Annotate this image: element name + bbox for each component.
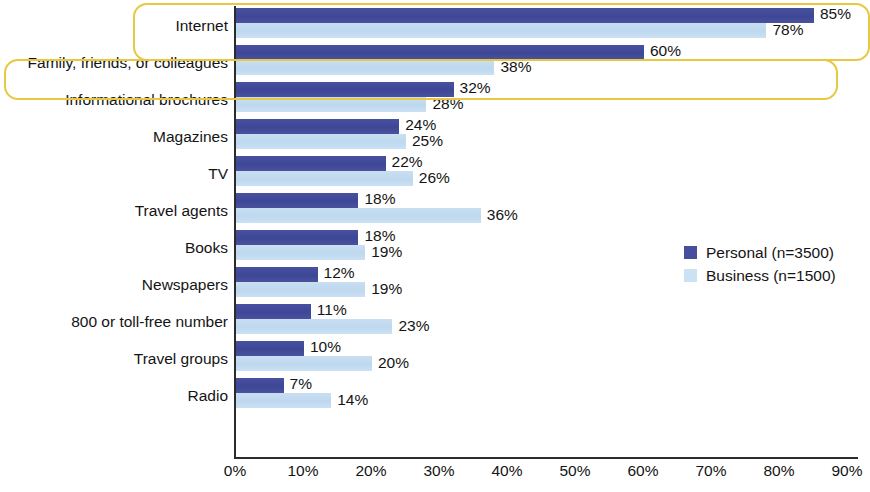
x-axis-tick: 60%	[627, 462, 658, 480]
bar-personal	[236, 119, 399, 134]
value-label-business: 14%	[337, 392, 368, 408]
category-label: Books	[0, 229, 228, 266]
bar-business	[236, 393, 331, 408]
legend-label-business: Business (n=1500)	[706, 267, 836, 285]
category-label: 800 or toll-free number	[0, 303, 228, 340]
value-label-business: 38%	[500, 59, 531, 75]
chart-row: 60%38%	[235, 43, 869, 80]
value-label-business: 19%	[371, 244, 402, 260]
category-label: Newspapers	[0, 266, 228, 303]
value-label-personal: 24%	[405, 117, 436, 133]
category-label: TV	[0, 155, 228, 192]
bar-business	[236, 356, 372, 371]
legend-swatch-business-icon	[684, 269, 697, 282]
value-label-personal: 18%	[364, 228, 395, 244]
value-label-personal: 7%	[290, 376, 312, 392]
bar-personal	[236, 230, 358, 245]
bar-personal	[236, 82, 454, 97]
bar-personal	[236, 193, 358, 208]
bar-personal	[236, 378, 284, 393]
value-label-personal: 32%	[460, 80, 491, 96]
bar-personal	[236, 304, 311, 319]
value-label-business: 23%	[398, 318, 429, 334]
x-axis-tick: 0%	[224, 462, 246, 480]
value-label-personal: 85%	[820, 6, 851, 22]
x-axis-tick: 50%	[559, 462, 590, 480]
x-axis-tick: 70%	[695, 462, 726, 480]
value-label-personal: 60%	[650, 43, 681, 59]
x-axis-tick: 90%	[831, 462, 862, 480]
legend-swatch-personal-icon	[684, 246, 697, 259]
x-axis-tick: 80%	[763, 462, 794, 480]
bar-personal	[236, 267, 318, 282]
bar-business	[236, 319, 392, 334]
value-label-personal: 22%	[392, 154, 423, 170]
value-label-personal: 10%	[310, 339, 341, 355]
chart-row: 18%36%	[235, 191, 869, 228]
bar-business	[236, 208, 481, 223]
x-axis-tick-labels: 0%10%20%30%40%50%60%70%80%90%	[0, 462, 869, 488]
category-label: Internet	[0, 7, 228, 44]
bar-business	[236, 134, 406, 149]
value-label-personal: 11%	[317, 302, 347, 318]
value-label-business: 28%	[432, 96, 463, 112]
bar-business	[236, 171, 413, 186]
chart-row: 11%23%	[235, 302, 869, 339]
category-label: Family, friends, or colleagues	[0, 44, 228, 81]
value-label-personal: 12%	[324, 265, 355, 281]
chart-row: 24%25%	[235, 117, 869, 154]
bar-personal	[236, 45, 644, 60]
chart-row: 10%20%	[235, 339, 869, 376]
value-label-business: 19%	[371, 281, 402, 297]
bar-personal	[236, 8, 814, 23]
category-label: Radio	[0, 377, 228, 414]
bar-business	[236, 97, 426, 112]
value-label-business: 36%	[487, 207, 518, 223]
value-label-business: 26%	[419, 170, 450, 186]
bar-business	[236, 60, 494, 75]
category-label: Travel groups	[0, 340, 228, 377]
plot-area: 85%78%60%38%32%28%24%25%22%26%18%36%18%1…	[235, 6, 869, 460]
bar-business	[236, 245, 365, 260]
bar-business	[236, 282, 365, 297]
chart-row: 22%26%	[235, 154, 869, 191]
legend-item-personal: Personal (n=3500)	[684, 241, 864, 264]
bar-personal	[236, 341, 304, 356]
chart-legend: Personal (n=3500) Business (n=1500)	[684, 241, 864, 287]
chart-row: 32%28%	[235, 80, 869, 117]
category-label: Travel agents	[0, 192, 228, 229]
bar-personal	[236, 156, 386, 171]
category-label: Informational brochures	[0, 81, 228, 118]
legend-item-business: Business (n=1500)	[684, 264, 864, 287]
bar-business	[236, 23, 766, 38]
value-label-personal: 18%	[364, 191, 395, 207]
x-axis-tick: 40%	[491, 462, 522, 480]
x-axis-tick: 30%	[423, 462, 454, 480]
value-label-business: 25%	[412, 133, 443, 149]
chart-row: 85%78%	[235, 6, 869, 43]
x-axis-tick: 10%	[287, 462, 318, 480]
x-axis-tick: 20%	[355, 462, 386, 480]
value-label-business: 78%	[772, 22, 803, 38]
legend-label-personal: Personal (n=3500)	[706, 244, 834, 262]
value-label-business: 20%	[378, 355, 409, 371]
chart-row: 7%14%	[235, 376, 869, 413]
category-label: Magazines	[0, 118, 228, 155]
